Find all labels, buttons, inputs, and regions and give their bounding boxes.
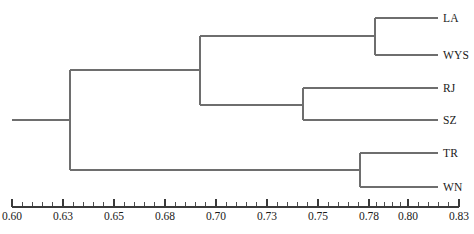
axis-tick-label: 0.60 — [2, 210, 22, 222]
axis-tick-label: 0.68 — [155, 210, 175, 222]
leaf-label-wys: WYS — [443, 49, 469, 61]
axis-tick-label: 0.78 — [359, 210, 379, 222]
axis-tick-label: 0.75 — [308, 210, 328, 222]
leaf-label-sz: SZ — [443, 114, 457, 126]
dendrogram-figure: LA WYS RJ SZ TR WN 0.60 0.63 0.65 0.68 0… — [0, 0, 474, 234]
similarity-axis — [12, 199, 459, 207]
axis-tick-label: 0.80 — [398, 210, 418, 222]
leaf-label-wn: WN — [443, 181, 463, 193]
leaf-label-la: LA — [443, 12, 459, 24]
axis-tick-label: 0.70 — [206, 210, 226, 222]
axis-tick-label: 0.65 — [104, 210, 124, 222]
leaf-label-rj: RJ — [443, 82, 456, 94]
dendrogram-canvas — [0, 0, 474, 234]
leaf-label-tr: TR — [443, 147, 458, 159]
axis-tick-label: 0.73 — [257, 210, 277, 222]
axis-minor-ticks — [22, 202, 449, 207]
axis-tick-label: 0.63 — [53, 210, 73, 222]
axis-tick-label: 0.83 — [449, 210, 469, 222]
